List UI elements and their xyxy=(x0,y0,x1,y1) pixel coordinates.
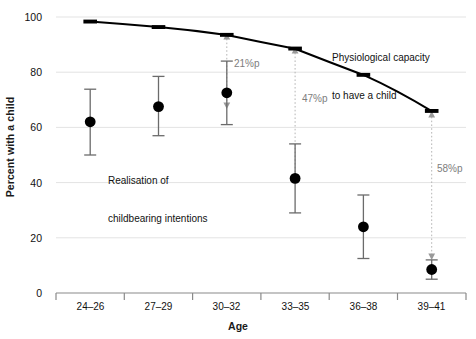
gap-label-47: 47%p xyxy=(302,93,328,104)
x-tick-label-2: 30–32 xyxy=(198,301,255,312)
x-tick-label-0: 24–26 xyxy=(62,301,119,312)
realisation-annotation-line2: childbearing intentions xyxy=(108,213,208,226)
x-axis-title: Age xyxy=(0,320,476,332)
x-tick-label-3: 33–35 xyxy=(267,301,324,312)
x-tick-label-1: 27–29 xyxy=(130,301,187,312)
realisation-annotation-line1: Realisation of xyxy=(108,175,208,188)
realisation-annotation: Realisation of childbearing intentions xyxy=(108,150,208,250)
x-axis xyxy=(56,293,466,300)
x-tick-label-5: 39–41 xyxy=(403,301,460,312)
capacity-annotation: Physiological capacity to have a child xyxy=(332,27,430,127)
gap-label-21: 21%p xyxy=(234,58,260,69)
gap-label-58: 58%p xyxy=(437,163,463,174)
x-tick-label-4: 36–38 xyxy=(335,301,392,312)
capacity-annotation-line1: Physiological capacity xyxy=(332,52,430,65)
chart-figure: Percent with a child 100 80 60 40 20 0 xyxy=(0,0,476,339)
capacity-annotation-line2: to have a child xyxy=(332,90,430,103)
